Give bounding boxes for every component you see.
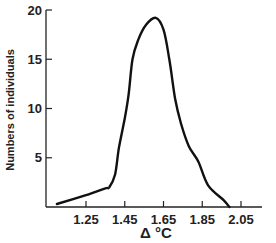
x-tick-label: 1.45 (112, 212, 137, 227)
y-tick-label: 20 (28, 3, 42, 18)
x-tick-label: 2.05 (228, 212, 253, 227)
distribution-curve (57, 18, 230, 207)
y-axis-label: Numbers of individuals (4, 49, 16, 171)
chart: 51015201.251.451.651.852.05 Numbers of i… (0, 0, 276, 243)
x-tick-label: 1.85 (190, 212, 215, 227)
y-tick-label: 15 (28, 52, 42, 67)
curve-layer (57, 18, 230, 207)
axes: 51015201.251.451.651.852.05 (28, 3, 262, 228)
x-axis-label: Δ °C (140, 224, 172, 241)
y-tick-label: 10 (28, 101, 42, 116)
y-tick-label: 5 (35, 150, 42, 165)
x-tick-label: 1.25 (73, 212, 98, 227)
